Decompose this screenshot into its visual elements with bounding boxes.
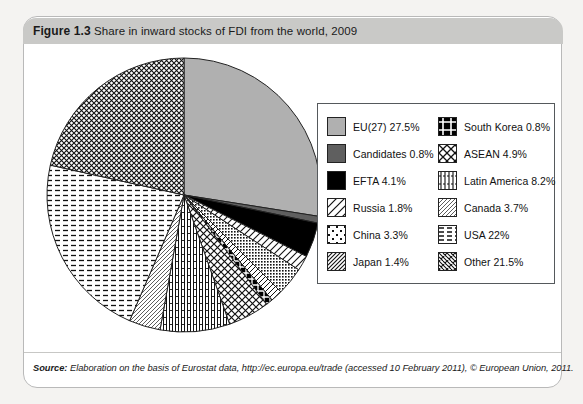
source-text: Elaboration on the basis of Eurostat dat…: [70, 363, 574, 373]
chart-area: EU(27) 27.5%Candidates 0.8%EFTA 4.1%Russ…: [23, 46, 562, 346]
legend-item-label: EFTA 4.1%: [353, 175, 406, 187]
legend-swatch-asean: [438, 144, 457, 163]
legend-swatch-other: [438, 252, 457, 271]
legend-item-label: Canada 3.7%: [464, 202, 528, 214]
legend-item: ASEAN 4.9%: [438, 140, 555, 167]
legend-swatch-candidates: [327, 144, 346, 163]
legend-item: EFTA 4.1%: [327, 167, 434, 194]
figure-title-text: Share in inward stocks of FDI from the w…: [94, 25, 357, 37]
legend-item: Other 21.5%: [438, 248, 555, 275]
legend-item-label: Russia 1.8%: [353, 202, 413, 214]
legend-column-left: EU(27) 27.5%Candidates 0.8%EFTA 4.1%Russ…: [327, 113, 434, 275]
legend-swatch-south-korea: [438, 117, 457, 136]
figure-title: Figure 1.3 Share in inward stocks of FDI…: [33, 24, 533, 40]
legend-item-label: Japan 1.4%: [353, 256, 409, 268]
legend-item: China 3.3%: [327, 221, 434, 248]
chart-legend: EU(27) 27.5%Candidates 0.8%EFTA 4.1%Russ…: [317, 103, 555, 284]
legend-item-label: South Korea 0.8%: [464, 121, 550, 133]
source-note: Source: Elaboration on the basis of Euro…: [33, 363, 553, 373]
legend-swatch-china: [327, 225, 346, 244]
legend-swatch-russia: [327, 198, 346, 217]
figure-page: Figure 1.3 Share in inward stocks of FDI…: [0, 0, 583, 404]
legend-item: Japan 1.4%: [327, 248, 434, 275]
source-label: Source:: [33, 363, 67, 373]
footer-divider: [24, 352, 561, 353]
legend-swatch-usa: [438, 225, 457, 244]
legend-item-label: China 3.3%: [353, 229, 408, 241]
legend-swatch-japan: [327, 252, 346, 271]
legend-item-label: EU(27) 27.5%: [353, 121, 420, 133]
legend-item-label: ASEAN 4.9%: [464, 148, 527, 160]
legend-swatch-efta: [327, 171, 346, 190]
legend-swatch-latin-america: [438, 171, 457, 190]
pie-slices: [47, 58, 321, 332]
legend-swatch-canada: [438, 198, 457, 217]
legend-item-label: Candidates 0.8%: [353, 148, 434, 160]
legend-item-label: Other 21.5%: [464, 256, 524, 268]
legend-item-label: Latin America 8.2%: [464, 175, 555, 187]
pie-chart: [39, 48, 329, 338]
legend-item-label: USA 22%: [464, 229, 509, 241]
legend-item: USA 22%: [438, 221, 555, 248]
legend-item: Candidates 0.8%: [327, 140, 434, 167]
legend-item: EU(27) 27.5%: [327, 113, 434, 140]
legend-swatch-eu27: [327, 117, 346, 136]
legend-item: Latin America 8.2%: [438, 167, 555, 194]
figure-number: Figure 1.3: [33, 24, 91, 38]
legend-item: Canada 3.7%: [438, 194, 555, 221]
legend-item: South Korea 0.8%: [438, 113, 555, 140]
legend-item: Russia 1.8%: [327, 194, 434, 221]
pie-slice-eu-27: [184, 58, 321, 216]
legend-column-right: South Korea 0.8%ASEAN 4.9%Latin America …: [438, 113, 555, 275]
